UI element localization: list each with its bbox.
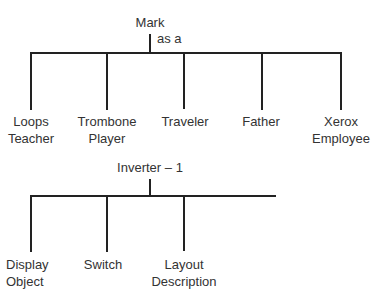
tree1-branch-4	[340, 52, 342, 110]
tree1-root-label: Mark	[130, 14, 170, 31]
child-line2: Description	[148, 273, 220, 290]
tree1-branch-0	[30, 52, 32, 110]
child-line1: Trombone	[72, 113, 142, 130]
tree1-child-loops-teacher: Loops Teacher	[0, 113, 62, 147]
child-line1: Father	[230, 113, 292, 130]
tree2-stem	[149, 179, 151, 196]
child-line2: Employee	[306, 130, 376, 147]
tree2-child-layout-description: Layout Description	[148, 256, 220, 290]
child-line2: Object	[6, 273, 56, 290]
child-line2: Player	[72, 130, 142, 147]
tree1-child-xerox-employee: Xerox Employee	[306, 113, 376, 147]
tree2-branch-2	[183, 195, 185, 251]
tree2-child-switch: Switch	[78, 256, 128, 273]
child-line1: Loops	[0, 113, 62, 130]
child-line1: Layout	[148, 256, 220, 273]
tree1-branch-2	[183, 52, 185, 109]
tree2-child-display-object: Display Object	[6, 256, 56, 290]
tree1-stem	[149, 34, 151, 53]
tree1-child-father: Father	[230, 113, 292, 130]
tree2-bar	[30, 195, 276, 197]
tree2-branch-1	[106, 195, 108, 252]
tree1-connector-label: as a	[157, 30, 182, 47]
tree2-root-label: Inverter – 1	[110, 159, 190, 176]
tree1-bar	[30, 52, 342, 54]
tree2-branch-0	[30, 195, 32, 252]
child-line1: Display	[6, 256, 56, 273]
tree1-child-trombone-player: Trombone Player	[72, 113, 142, 147]
child-line1: Switch	[78, 256, 128, 273]
child-line2: Teacher	[0, 130, 62, 147]
tree1-child-traveler: Traveler	[152, 113, 218, 130]
child-line1: Xerox	[306, 113, 376, 130]
tree1-branch-3	[261, 52, 263, 110]
tree1-branch-1	[106, 52, 108, 110]
child-line1: Traveler	[152, 113, 218, 130]
